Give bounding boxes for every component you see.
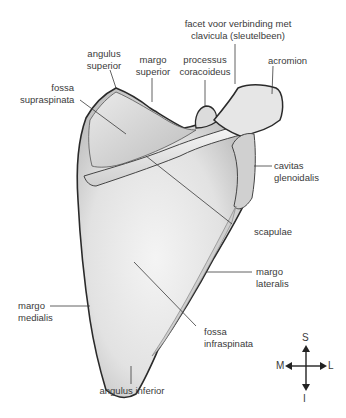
label-line: medialis — [18, 312, 53, 324]
label-processus-coracoideus: processus coracoideus — [178, 54, 232, 78]
label-line: cavitas — [274, 160, 319, 172]
label-line: superior — [130, 66, 176, 78]
label-fossa-infraspinata: fossa infraspinata — [204, 326, 253, 350]
label-line: coracoideus — [178, 66, 232, 78]
label-margo-superior: margo superior — [130, 54, 176, 78]
label-angulus-superior: angulus superior — [78, 48, 130, 72]
label-line: facet voor verbinding met — [178, 18, 298, 30]
label-scapulae: scapulae — [254, 226, 292, 238]
compass-medial: M — [276, 360, 284, 372]
label-line: glenoidalis — [274, 172, 319, 184]
label-line: clavicula (sleutelbeen) — [178, 30, 298, 42]
label-facet-clavicula: facet voor verbinding met clavicula (sle… — [178, 18, 298, 42]
label-margo-medialis: margo medialis — [18, 300, 53, 324]
label-line: acromion — [268, 55, 307, 67]
label-cavitas-glenoidalis: cavitas glenoidalis — [274, 160, 319, 184]
label-line: angulus inferior — [90, 385, 174, 397]
label-acromion: acromion — [268, 55, 307, 67]
label-line: margo — [18, 300, 53, 312]
label-margo-lateralis: margo lateralis — [256, 266, 289, 290]
compass-inferior: I — [303, 393, 306, 405]
label-line: angulus — [78, 48, 130, 60]
label-fossa-supraspinata: fossa supraspinata — [20, 82, 74, 106]
label-line: margo — [256, 266, 289, 278]
label-line: margo — [130, 54, 176, 66]
compass-lateral: L — [328, 360, 334, 372]
label-line: processus — [178, 54, 232, 66]
label-line: fossa — [20, 82, 74, 94]
orientation-compass — [285, 345, 327, 391]
label-angulus-inferior: angulus inferior — [90, 385, 174, 397]
label-line: supraspinata — [20, 94, 74, 106]
label-line: scapulae — [254, 226, 292, 238]
label-line: infraspinata — [204, 338, 253, 350]
label-line: lateralis — [256, 278, 289, 290]
label-line: fossa — [204, 326, 253, 338]
label-line: superior — [78, 60, 130, 72]
compass-superior: S — [302, 332, 309, 344]
